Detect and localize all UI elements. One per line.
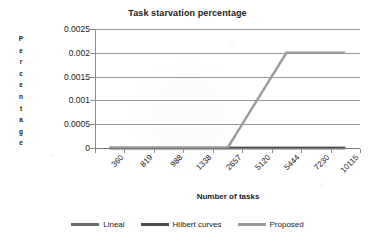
legend-item[interactable]: Proposed <box>238 220 304 229</box>
legend-swatch-icon <box>238 223 266 226</box>
y-axis-title-letter: c <box>14 68 28 80</box>
x-axis-tick-labels: 3608199881338265751205444723010115 <box>95 153 361 187</box>
legend-swatch-icon <box>141 223 169 226</box>
x-axis-tick-label: 5120 <box>266 153 272 159</box>
legend-swatch-icon <box>71 223 99 226</box>
x-axis-tick-label: 2657 <box>237 153 243 159</box>
x-axis-tick-label: 5444 <box>295 153 301 159</box>
y-axis-tick-label: 0.002 <box>30 48 90 58</box>
x-axis-tick-label-text: 988 <box>168 153 184 169</box>
y-axis-title-letter: e <box>14 137 28 149</box>
y-axis-tick-label: 0 <box>30 143 90 153</box>
y-axis-tick-mark <box>90 124 95 125</box>
x-axis-tick-label: 360 <box>119 153 125 159</box>
x-axis-tick-label-text: 1338 <box>194 153 213 172</box>
plot-area <box>95 29 360 148</box>
x-axis-tick-label: 1338 <box>207 153 213 159</box>
series-layer <box>95 29 360 148</box>
y-axis-title-letter: n <box>14 91 28 103</box>
legend-label: Lineal <box>103 220 124 229</box>
x-axis-tick-label-text: 7230 <box>312 153 331 172</box>
legend-item[interactable]: Lineal <box>71 220 124 229</box>
x-axis-title: Number of tasks <box>95 192 361 201</box>
y-axis-title-letter: e <box>14 79 28 91</box>
y-axis-title: Percentage <box>14 33 28 149</box>
x-axis-tick-label-text: 2657 <box>224 153 243 172</box>
y-axis-title-letter: a <box>14 114 28 126</box>
y-axis-title-letter: r <box>14 56 28 68</box>
x-axis-tick-label: 10115 <box>354 153 360 159</box>
y-axis-tick-mark <box>90 53 95 54</box>
y-axis-tick-mark <box>90 29 95 30</box>
x-axis-tick-label: 819 <box>148 153 154 159</box>
x-axis-tick-label-text: 5120 <box>253 153 272 172</box>
legend-item[interactable]: Hilbert curves <box>141 220 222 229</box>
y-axis-tick-mark <box>90 100 95 101</box>
y-axis-title-letter: P <box>14 33 28 45</box>
y-axis-tick-label: 0.001 <box>30 95 90 105</box>
x-axis-tick-label-text: 5444 <box>283 153 302 172</box>
chart-title: Task starvation percentage <box>0 8 375 18</box>
legend-label: Hilbert curves <box>173 220 222 229</box>
x-axis-tick-label: 988 <box>178 153 184 159</box>
x-axis-tick-label-text: 360 <box>109 153 125 169</box>
y-axis-tick-label: 0.0015 <box>30 72 90 82</box>
y-axis-title-letter: t <box>14 103 28 115</box>
y-axis-title-letter: g <box>14 126 28 138</box>
y-axis-tick-label: 0.0025 <box>30 24 90 34</box>
x-axis-tick-label: 7230 <box>325 153 331 159</box>
chart-legend: LinealHilbert curvesProposed <box>0 220 375 229</box>
x-axis-tick-label-text: 10115 <box>339 153 361 175</box>
y-axis-title-letter: e <box>14 45 28 57</box>
y-axis-tick-label: 0.0005 <box>30 119 90 129</box>
series-line <box>110 53 346 148</box>
y-axis-tick-labels: 00.00050.0010.00150.0020.0025 <box>30 25 90 149</box>
legend-label: Proposed <box>270 220 304 229</box>
y-axis-tick-marks <box>90 29 96 149</box>
x-axis-tick-label-text: 819 <box>139 153 155 169</box>
y-axis-tick-mark <box>90 77 95 78</box>
